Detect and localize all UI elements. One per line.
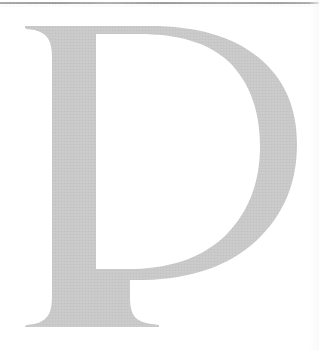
dropcap-glyph-icon	[0, 0, 319, 350]
scanned-page: D	[0, 0, 319, 350]
dropcap-letter-d	[0, 0, 319, 350]
